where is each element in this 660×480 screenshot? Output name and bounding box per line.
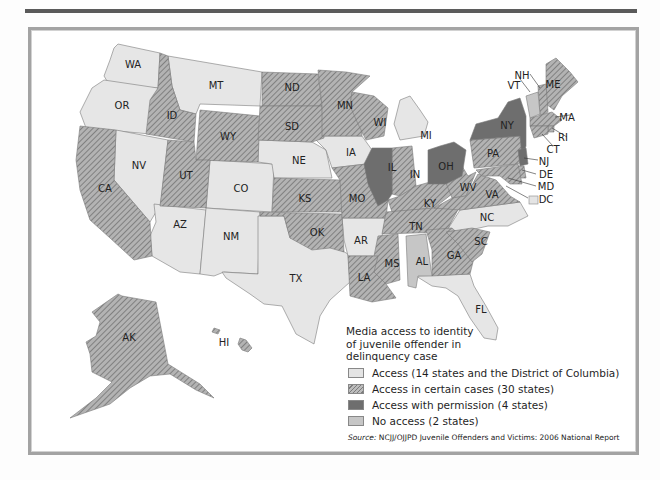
state-HI-islands [212,328,220,334]
legend-title: Media access to identity of juvenile off… [346,325,476,363]
svg-text:IL: IL [388,162,397,173]
legend-item-none: No access (2 states) [346,413,636,429]
svg-text:TN: TN [408,221,423,232]
svg-text:VA: VA [485,189,498,200]
svg-text:MI: MI [420,130,432,141]
svg-text:CA: CA [98,183,112,194]
map-legend: Media access to identity of juvenile off… [346,325,636,429]
state-NM[interactable] [200,208,260,276]
svg-text:WI: WI [374,117,387,128]
svg-text:PA: PA [487,148,499,159]
svg-text:VT: VT [508,80,522,91]
svg-text:MA: MA [559,112,575,123]
svg-text:AZ: AZ [173,219,187,230]
svg-text:OR: OR [115,100,130,111]
svg-text:AL: AL [416,256,429,267]
svg-text:ND: ND [284,82,299,93]
legend-label: Access (14 states and the District of Co… [372,367,619,379]
legend-label: Access with permission (4 states) [372,399,548,411]
svg-text:IN: IN [410,169,420,180]
swatch-access [348,368,364,378]
svg-text:SD: SD [285,121,299,132]
svg-text:WV: WV [460,182,477,193]
svg-text:KS: KS [299,193,312,204]
svg-text:HI: HI [219,337,229,348]
svg-text:MN: MN [337,100,353,111]
svg-text:WA: WA [125,59,141,70]
state-VT[interactable] [526,92,540,118]
svg-text:NM: NM [223,231,239,242]
svg-text:DC: DC [539,194,554,205]
svg-text:MO: MO [349,193,366,204]
state-DC[interactable] [529,196,538,204]
svg-text:DE: DE [539,169,553,180]
svg-text:OK: OK [310,227,325,238]
legend-item-certain: Access in certain cases (30 states) [346,381,636,397]
svg-text:AK: AK [122,332,136,343]
state-HI[interactable] [238,338,252,352]
svg-text:NY: NY [500,120,514,131]
svg-text:LA: LA [358,272,371,283]
source-note: Source: NCJJ/OJJPD Juvenile Offenders an… [348,433,620,442]
svg-text:IA: IA [346,147,356,158]
svg-text:WY: WY [220,131,237,142]
svg-text:KY: KY [424,198,437,209]
legend-item-permission: Access with permission (4 states) [346,397,636,413]
state-AK[interactable] [70,294,214,418]
svg-text:NC: NC [480,212,494,223]
svg-text:CO: CO [234,183,249,194]
svg-text:MS: MS [385,258,400,269]
source-prefix: Source: [348,433,376,442]
swatch-certain [348,384,364,394]
svg-text:NJ: NJ [539,156,549,167]
svg-text:GA: GA [447,250,462,261]
svg-text:CT: CT [546,144,560,155]
legend-label: Access in certain cases (30 states) [372,383,554,395]
legend-label: No access (2 states) [372,415,479,427]
svg-text:MT: MT [209,80,225,91]
legend-item-access: Access (14 states and the District of Co… [346,365,636,381]
swatch-none [348,416,364,426]
svg-text:NV: NV [132,160,146,171]
svg-text:TX: TX [289,273,303,284]
svg-text:RI: RI [558,132,568,143]
swatch-permission [348,400,364,410]
svg-text:ME: ME [546,79,561,90]
svg-text:AR: AR [354,235,368,246]
svg-text:NE: NE [292,155,306,166]
state-AZ[interactable] [150,204,206,274]
svg-text:ID: ID [167,110,178,121]
state-NJ[interactable] [518,148,528,166]
source-text: NCJJ/OJJPD Juvenile Offenders and Victim… [379,433,620,442]
svg-text:SC: SC [474,236,487,247]
state-CT[interactable] [530,126,548,138]
svg-text:OH: OH [438,161,453,172]
svg-text:FL: FL [475,304,487,315]
svg-text:UT: UT [179,170,193,181]
svg-text:MD: MD [538,181,555,192]
